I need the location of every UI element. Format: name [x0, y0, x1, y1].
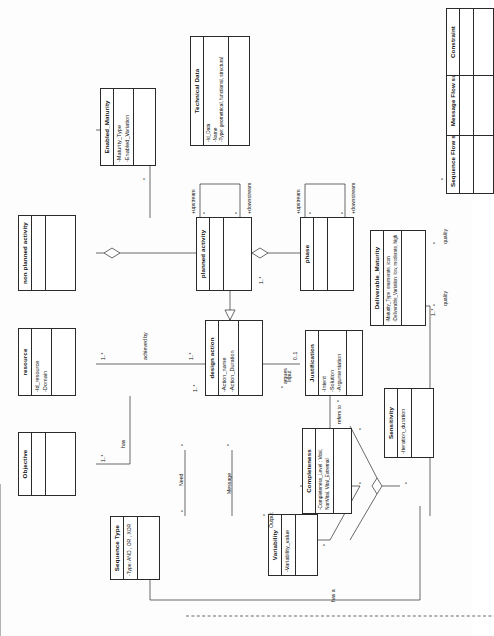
assoc-label-output: Output	[268, 512, 274, 528]
class-planned-activity[interactable]: planned activity	[196, 217, 252, 291]
class-design-action-ops	[239, 321, 252, 395]
class-non-planned-activity-attrs	[32, 216, 46, 290]
attr: -Variability_value	[284, 518, 292, 572]
class-objective-attrs	[32, 433, 46, 495]
mult-objective: 1..*	[100, 454, 106, 462]
class-sequence-type-name: Sequence Type	[111, 517, 124, 579]
class-planned-activity-ops	[224, 218, 237, 290]
mult-quality-1: *	[432, 304, 438, 306]
role-label-downstream-phase: +downstream	[350, 183, 356, 214]
attr: -Intent	[321, 334, 329, 392]
attr: NonVital, Vital_Extremal	[325, 432, 331, 510]
class-planned-activity-attrs	[210, 218, 224, 290]
mult-justification: 0..1	[292, 352, 298, 360]
role-label-upstream-phase: +upstream	[295, 189, 301, 214]
mult-variability: *	[322, 544, 328, 546]
mult-technical-data: *	[404, 482, 410, 484]
class-objective[interactable]: Objective	[18, 432, 76, 496]
mult-quality-2: *	[432, 242, 438, 244]
class-technical-data-attrs: -Id_Data -Name -Type: geometrical, funct…	[204, 37, 228, 145]
assoc-label-need: Need	[178, 474, 184, 486]
assoc-label-has-a: has a	[330, 589, 336, 602]
mult-need: *	[180, 444, 186, 446]
class-deliverable-maturity-name: Deliverable_Maturity	[371, 231, 384, 325]
mult-achieved-by: 1..*	[188, 352, 194, 360]
class-completeness-name: Completeness	[303, 429, 316, 513]
mult-sensitivity: *	[358, 428, 364, 430]
class-enabled-maturity[interactable]: Enabled_Maturity -Maturity_Type -Enabled…	[100, 88, 156, 166]
class-enabled-maturity-attrs: -Maturity_Type -Enabled_Variation	[114, 89, 134, 165]
class-phase-attrs	[314, 218, 328, 290]
class-sequence-type[interactable]: Sequence Type -Type: AND , OR , XOR	[110, 516, 160, 580]
class-sensitivity[interactable]: Sensitivity -Iteration_duration	[384, 388, 434, 458]
assoc-label-achieved-by: achieved by	[142, 332, 148, 360]
class-enabled-maturity-name: Enabled_Maturity	[101, 89, 114, 165]
class-non-planned-activity[interactable]: non planned activity	[18, 215, 76, 291]
class-justification[interactable]: Justification -Intent -Solution -Argumen…	[305, 330, 363, 396]
mult-phase-downstream: *	[340, 212, 346, 214]
attr: -Type: geometrical, functional, structur…	[219, 40, 225, 142]
class-resource-name: resource	[19, 329, 32, 395]
class-objective-ops	[46, 433, 59, 495]
mult-justification-low: *	[336, 400, 342, 402]
class-technical-data[interactable]: Technical Data -Id_Data -Name -Type: geo…	[190, 36, 250, 146]
attr: -Solution	[329, 334, 337, 392]
role-label-downstream-planned: +downstream	[246, 183, 252, 214]
attr: -Action_name	[221, 324, 229, 392]
attr: -Iteration_duration	[400, 392, 408, 454]
assoc-label-quality-2: quality	[442, 229, 448, 244]
class-objective-name: Objective	[19, 433, 32, 495]
class-phase-name: phase	[301, 218, 314, 290]
attr: -Domain	[42, 332, 50, 392]
class-design-action-attrs: -Action_name -Action_Duration	[219, 321, 239, 395]
attr: -Deliverable_Variation: low, moderate, h…	[393, 234, 399, 322]
class-resource-ops	[52, 329, 65, 395]
class-constraint-ops	[474, 9, 487, 75]
class-sequence-type-attrs: -Type: AND , OR , XOR	[124, 517, 138, 579]
class-deliverable-maturity[interactable]: Deliverable_Maturity -Maturity_Type: enu…	[370, 230, 426, 326]
mult-message: *	[226, 444, 232, 446]
class-enabled-maturity-ops	[134, 89, 147, 165]
class-technical-data-name: Technical Data	[191, 37, 204, 145]
class-justification-ops	[347, 331, 360, 395]
assoc-label-has: has	[120, 440, 126, 448]
class-planned-activity-name: planned activity	[197, 218, 210, 290]
mult-enabled: *	[142, 178, 148, 180]
mult-flow: *	[440, 178, 446, 180]
mult-phase-upstream: *	[308, 212, 314, 214]
class-resource-attrs: -Id_resource -Domain	[32, 329, 52, 395]
class-constraint[interactable]: Constraint	[446, 8, 494, 76]
class-deliverable-maturity-attrs: -Maturity_Type: enumerate, icon -Deliver…	[384, 231, 401, 325]
class-justification-name: Justification	[306, 331, 319, 395]
class-constraint-name: Constraint	[447, 9, 460, 75]
attr: -Enabled_Variation	[124, 92, 132, 162]
assoc-label-quality-1: quality	[442, 291, 448, 306]
class-completeness[interactable]: Completeness -Completeness_Level : Vital…	[302, 428, 352, 514]
mult-pa-downstream: *	[234, 212, 240, 214]
class-design-action-name: design action	[206, 321, 219, 395]
mult-planned-activity: 1..*	[258, 276, 264, 284]
class-design-action[interactable]: design action -Action_name -Action_Durat…	[205, 320, 263, 396]
class-justification-attrs: -Intent -Solution -Argumentation	[319, 331, 347, 395]
class-variability-attrs: -Variability_value	[282, 515, 296, 575]
class-completeness-attrs: -Completeness_Level : Vital, NonVital, V…	[316, 429, 334, 513]
mult-pa-upstream: *	[202, 212, 208, 214]
mult-design-action-a: 1..*	[192, 384, 198, 392]
assoc-label-refers-to: refers to	[336, 405, 342, 424]
attr: -Type: AND , OR , XOR	[126, 520, 133, 576]
class-variability-real2[interactable]: Variability -Variability_value	[268, 514, 318, 576]
class-sensitivity-name: Sensitivity	[385, 389, 398, 457]
assoc-label-message: Message	[226, 473, 232, 494]
mult-sequence-type: *	[180, 510, 186, 512]
class-sensitivity-attrs: -Iteration_duration	[398, 389, 412, 457]
mult-input: *	[280, 386, 286, 388]
class-phase[interactable]: phase	[300, 217, 354, 291]
class-deliverable-maturity-ops	[402, 231, 415, 325]
class-sensitivity-ops	[412, 389, 425, 457]
class-resource[interactable]: resource -Id_resource -Domain	[18, 328, 76, 396]
mult-deliverable: 1..*	[430, 308, 436, 316]
class-constraint-attrs	[460, 9, 474, 75]
class-non-planned-activity-name: non planned activity	[19, 216, 32, 290]
